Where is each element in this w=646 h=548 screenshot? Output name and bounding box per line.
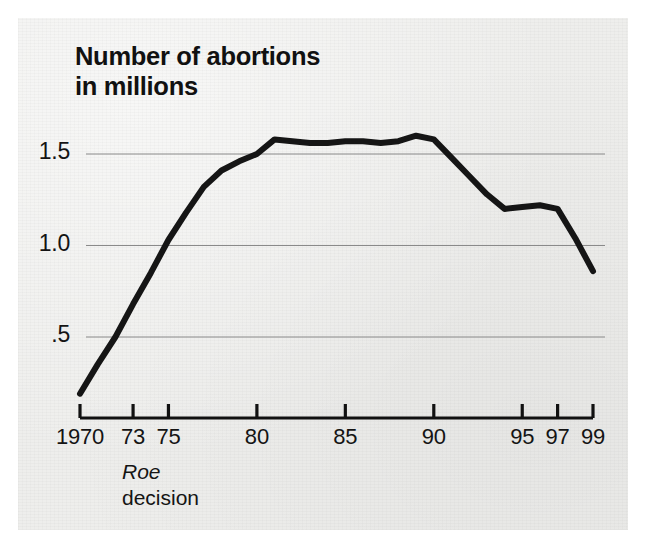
x-axis-tick-label: 90 [399, 424, 469, 450]
roe-annotation-subtext: decision [122, 485, 199, 511]
data-series-line [80, 136, 593, 394]
chart-figure: Number of abortions in millions 1.51.0.5… [0, 0, 646, 548]
y-axis-tick-label: 1.0 [18, 230, 70, 257]
x-axis-tick-label: 75 [133, 424, 203, 450]
y-axis-tick-label: .5 [18, 321, 70, 348]
roe-annotation-term: Roe [122, 459, 199, 485]
y-axis-tick-label: 1.5 [18, 138, 70, 165]
roe-decision-annotation: Roe decision [122, 459, 199, 510]
x-axis [80, 404, 593, 418]
x-axis-tick-label: 80 [222, 424, 292, 450]
x-axis-tick-label: 85 [310, 424, 380, 450]
x-axis-ticks [80, 404, 593, 418]
x-axis-tick-label: 99 [558, 424, 628, 450]
chart-title: Number of abortions in millions [75, 42, 320, 101]
